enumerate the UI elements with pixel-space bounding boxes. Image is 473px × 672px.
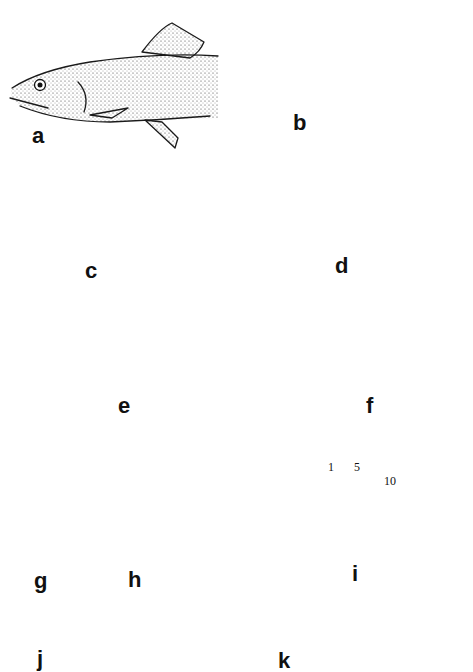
figure-canvas: [0, 0, 473, 672]
panel-label-h: h: [128, 569, 141, 591]
panel-label-b: b: [293, 112, 306, 134]
scale-tick-5: 5: [354, 460, 360, 475]
panel-label-j: j: [37, 648, 43, 670]
scale-tick-1: 1: [328, 460, 334, 475]
panel-label-e: e: [118, 395, 130, 417]
panel-label-a: a: [32, 125, 44, 147]
panel-label-g: g: [34, 570, 47, 592]
panel-label-i: i: [352, 563, 358, 585]
panel-label-c: c: [85, 260, 97, 282]
panel-label-k: k: [278, 650, 290, 672]
panel-label-d: d: [335, 255, 348, 277]
panel-label-f: f: [366, 395, 373, 417]
scale-tick-10: 10: [384, 474, 396, 489]
